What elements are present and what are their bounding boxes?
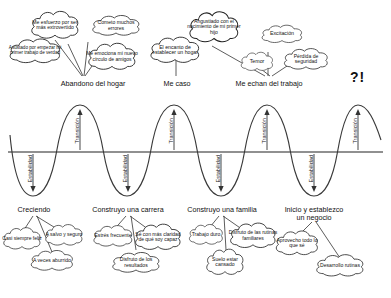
thought-cloud-cometo-muchos-errores: Cometo muchos errores bbox=[88, 13, 144, 38]
thought-cloud-temor: Temor bbox=[238, 50, 276, 73]
thought-cloud-trabajo-duro: Trabajo duro bbox=[186, 222, 226, 247]
phase-label-inicio-negocio: Inicio y establezco un negocio bbox=[282, 206, 346, 221]
thought-cloud-desarrollo-rutinas: Desarrollo rutinas bbox=[312, 252, 368, 279]
thought-cloud-a-salvo-y-seguro: A salvo y seguro bbox=[42, 222, 86, 248]
event-label-me-caso: Me caso bbox=[152, 79, 202, 88]
axis-tag-transicion-3: Transición bbox=[261, 118, 267, 144]
event-label-me-echan-del-trabajo: Me echan del trabajo bbox=[228, 79, 310, 88]
phase-label-construyo-una-familia: Construyo una familia bbox=[182, 206, 262, 214]
life-transitions-diagram: Abandono del hogar Me caso Me echan del … bbox=[0, 0, 391, 298]
thought-cloud-perdida-de-seguridad: Pérdida de seguridad bbox=[280, 46, 332, 72]
thought-cloud-disfruto-resultados: Disfruto de los resultados bbox=[108, 250, 164, 275]
thought-cloud-se-con-mas-claridad: Sé con más claridad de qué soy capaz bbox=[131, 221, 185, 253]
thought-cloud-suelo-estar-cansado: Suelo estar cansado bbox=[203, 246, 247, 278]
thought-cloud-a-veces-aburrido: A veces aburrido bbox=[27, 248, 77, 273]
thought-cloud-asustado-primer-trabajo: Asustado por empezar mi primer trabajo d… bbox=[5, 36, 65, 66]
thought-cloud-estres-frecuente: Estrés frecuente bbox=[90, 223, 136, 249]
axis-tag-estabilidad-2: Estabilidad bbox=[122, 155, 128, 182]
phase-label-construyo-una-carrera: Construyo una carrera bbox=[88, 206, 168, 214]
thought-cloud-excitacion: Excitación bbox=[258, 23, 306, 45]
axis-tag-transicion-4: Transición bbox=[352, 118, 358, 144]
event-label-abandono-del-hogar: Abandono del hogar bbox=[48, 79, 138, 88]
thought-cloud-nuevo-circulo-amigos: Me emociona mi nuevo círculo de amigos bbox=[84, 40, 140, 73]
sine-wave-path bbox=[10, 105, 381, 196]
axis-tag-transicion-2: Transición bbox=[168, 118, 174, 144]
thought-cloud-angustiado-nacimiento-hijo: Angustiado con el nacimiento de mi prime… bbox=[185, 8, 243, 46]
axis-tag-estabilidad-1: Estabilidad bbox=[27, 155, 33, 182]
axis-tag-estabilidad-3: Estabilidad bbox=[215, 155, 221, 182]
event-label-uncertain-future: ?! bbox=[350, 69, 365, 85]
axis-tag-estabilidad-4: Estabilidad bbox=[308, 155, 314, 182]
phase-label-creciendo: Creciendo bbox=[3, 206, 65, 214]
axis-tag-transicion-1: Transición bbox=[74, 118, 80, 144]
